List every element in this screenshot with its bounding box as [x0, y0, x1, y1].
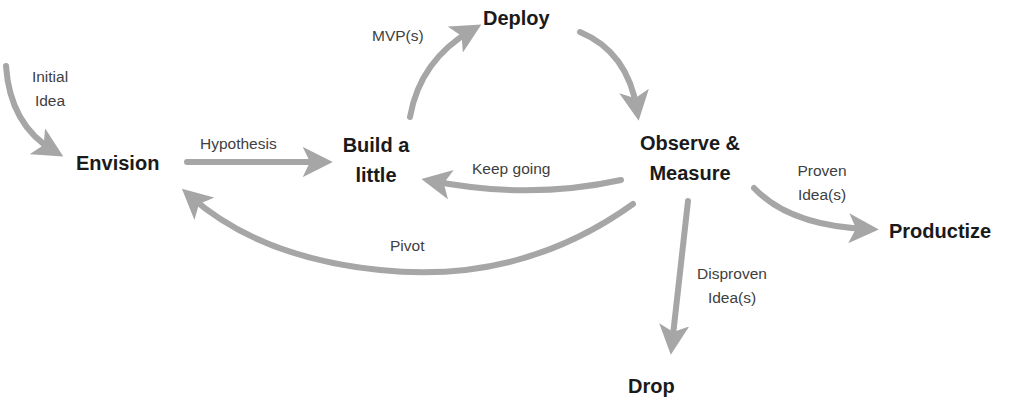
label-initial-line1: Initial: [22, 66, 78, 88]
node-drop: Drop: [628, 373, 675, 398]
label-disproven-line2: Idea(s): [690, 287, 774, 309]
label-mvps: MVP(s): [372, 25, 424, 47]
label-disproven: Disproven Idea(s): [690, 263, 774, 309]
label-proven-line1: Proven: [790, 160, 854, 182]
node-envision: Envision: [76, 150, 159, 176]
label-disproven-line1: Disproven: [690, 263, 774, 285]
label-proven: Proven Idea(s): [790, 160, 854, 206]
label-keep-going: Keep going: [472, 158, 550, 180]
node-observe-measure: Observe & Measure: [628, 130, 752, 186]
arrow-keep-going: [432, 180, 621, 190]
label-initial-line2: Idea: [22, 90, 78, 112]
node-observe-line1: Observe &: [628, 130, 752, 156]
label-pivot: Pivot: [390, 235, 424, 257]
label-hypothesis: Hypothesis: [200, 133, 277, 155]
node-build-line2: little: [330, 162, 422, 188]
node-build-a-little: Build a little: [330, 132, 422, 188]
label-initial-idea: Initial Idea: [22, 66, 78, 112]
node-build-line1: Build a: [330, 132, 422, 158]
arrow-deploy-observe: [580, 32, 637, 110]
arrows-layer: [0, 0, 1023, 398]
node-observe-line2: Measure: [628, 160, 752, 186]
arrow-disproven: [672, 201, 688, 344]
label-proven-line2: Idea(s): [790, 184, 854, 206]
node-productize: Productize: [889, 218, 991, 244]
node-deploy: Deploy: [483, 5, 550, 31]
